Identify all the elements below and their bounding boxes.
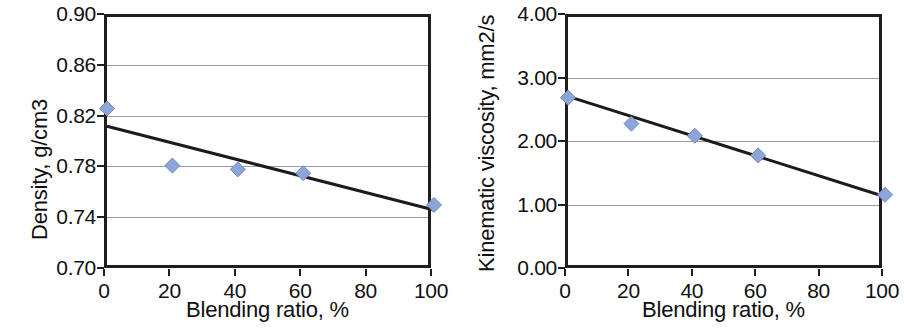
y-tick-mark (97, 64, 104, 66)
data-point-marker (561, 90, 576, 105)
y-tick-mark (97, 13, 104, 15)
y-tick-label: 1.00 (449, 194, 557, 215)
viscosity-chart-panel: Kinematic viscosity, mm2/s 0.001.002.003… (449, 0, 898, 330)
density-x-axis-title: Blending ratio, % (104, 298, 431, 322)
y-tick-mark (97, 165, 104, 167)
x-tick-mark (564, 269, 566, 276)
data-point-marker (624, 116, 639, 131)
data-point-marker (878, 187, 893, 202)
x-tick-mark (627, 269, 629, 276)
y-tick-mark (558, 140, 565, 142)
density-plot-area (104, 14, 431, 268)
y-tick-label: 0.70 (0, 257, 96, 278)
y-tick-label: 0.82 (0, 105, 96, 126)
y-tick-label: 0.00 (449, 257, 557, 278)
data-point-marker (751, 148, 766, 163)
data-point-marker (687, 128, 702, 143)
x-tick-mark (430, 269, 432, 276)
y-tick-label: 0.78 (0, 155, 96, 176)
data-point-marker (165, 158, 180, 173)
density-chart-panel: Density, g/cm3 0.700.740.780.820.860.90 … (0, 0, 449, 330)
x-tick-mark (818, 269, 820, 276)
x-tick-mark (103, 269, 105, 276)
y-tick-mark (558, 77, 565, 79)
data-point-marker (427, 197, 442, 212)
viscosity-data-markers (568, 17, 885, 271)
viscosity-x-axis-title: Blending ratio, % (565, 298, 882, 322)
y-tick-mark (558, 13, 565, 15)
x-tick-mark (299, 269, 301, 276)
y-tick-label: 4.00 (449, 3, 557, 24)
density-data-markers (107, 17, 434, 271)
x-tick-mark (168, 269, 170, 276)
viscosity-plot-area (565, 14, 882, 268)
y-tick-mark (97, 216, 104, 218)
data-point-marker (296, 166, 311, 181)
x-tick-mark (881, 269, 883, 276)
data-point-marker (230, 162, 245, 177)
x-tick-mark (691, 269, 693, 276)
x-tick-mark (234, 269, 236, 276)
y-tick-label: 3.00 (449, 67, 557, 88)
y-tick-label: 0.86 (0, 54, 96, 75)
y-tick-mark (558, 204, 565, 206)
y-tick-mark (97, 115, 104, 117)
x-tick-mark (365, 269, 367, 276)
y-tick-label: 0.90 (0, 3, 96, 24)
y-tick-label: 0.74 (0, 206, 96, 227)
y-tick-label: 2.00 (449, 130, 557, 151)
x-tick-mark (754, 269, 756, 276)
